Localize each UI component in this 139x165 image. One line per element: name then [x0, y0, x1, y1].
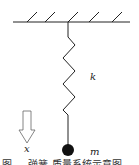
mass-label: m: [90, 146, 99, 157]
spring-constant-label: k: [90, 71, 96, 82]
mass-ball: [62, 144, 74, 156]
down-arrow-icon: [19, 111, 35, 143]
axis-x-label: x: [24, 143, 30, 154]
spring-mass-diagram: k m x 图 — 弹簧-质量系统示意图: [0, 0, 139, 165]
spring: [63, 22, 75, 148]
ceiling: [13, 12, 130, 22]
figure-caption: 图 — 弹簧-质量系统示意图: [2, 158, 122, 165]
